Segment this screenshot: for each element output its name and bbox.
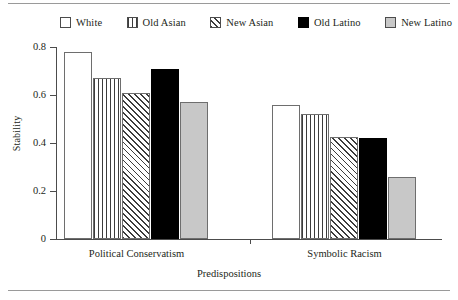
vertical-stripe-square-icon: [127, 17, 138, 28]
y-axis-tick-label: 0.8: [0, 42, 46, 53]
legend-item[interactable]: Old Latino: [298, 17, 361, 28]
y-axis-tick-label: 0: [0, 234, 46, 245]
y-axis-tick: [50, 95, 56, 96]
bar-group: [272, 47, 417, 239]
legend-item-label: White: [76, 17, 102, 28]
x-axis-category-label: Symbolic Racism: [245, 249, 445, 260]
solid-black-square-icon: [298, 17, 309, 28]
bar[interactable]: [359, 138, 387, 239]
y-axis-tick: [50, 143, 56, 144]
y-axis-title: Stability: [11, 94, 22, 174]
legend-item[interactable]: White: [60, 17, 102, 28]
y-axis-tick-label: 0.4: [0, 138, 46, 149]
bar[interactable]: [122, 93, 150, 239]
bar[interactable]: [301, 114, 329, 239]
y-axis-tick: [50, 47, 56, 48]
y-axis-tick-label: 0.2: [0, 186, 46, 197]
x-axis-category-label: Political Conservatism: [37, 249, 237, 260]
bar[interactable]: [330, 137, 358, 239]
legend-item[interactable]: New Latino: [385, 17, 452, 28]
y-axis-tick: [50, 239, 56, 240]
bar[interactable]: [388, 177, 416, 239]
x-axis-line: [56, 239, 442, 240]
bar-group: [64, 47, 209, 239]
legend-item-label: Old Latino: [314, 17, 361, 28]
bar[interactable]: [272, 105, 300, 239]
legend-item[interactable]: New Asian: [210, 17, 273, 28]
chart-legend: WhiteOld AsianNew AsianOld LatinoNew Lat…: [60, 14, 452, 30]
x-axis-separator-tick: [250, 239, 251, 244]
empty-square-icon: [60, 17, 71, 28]
legend-item[interactable]: Old Asian: [127, 17, 186, 28]
y-axis-tick-label: 0.6: [0, 90, 46, 101]
figure: WhiteOld AsianNew AsianOld LatinoNew Lat…: [0, 0, 458, 300]
bar[interactable]: [151, 69, 179, 239]
legend-item-label: New Asian: [226, 17, 273, 28]
diagonal-hatch-square-icon: [210, 17, 221, 28]
top-rule: [8, 3, 450, 4]
legend-item-label: Old Asian: [143, 17, 186, 28]
bar[interactable]: [180, 102, 208, 239]
x-axis-title: Predispositions: [0, 268, 458, 279]
bar[interactable]: [93, 78, 121, 239]
bottom-rule: [8, 290, 450, 291]
legend-item-label: New Latino: [401, 17, 452, 28]
y-axis-tick: [50, 191, 56, 192]
bar[interactable]: [64, 52, 92, 239]
solid-gray-square-icon: [385, 17, 396, 28]
